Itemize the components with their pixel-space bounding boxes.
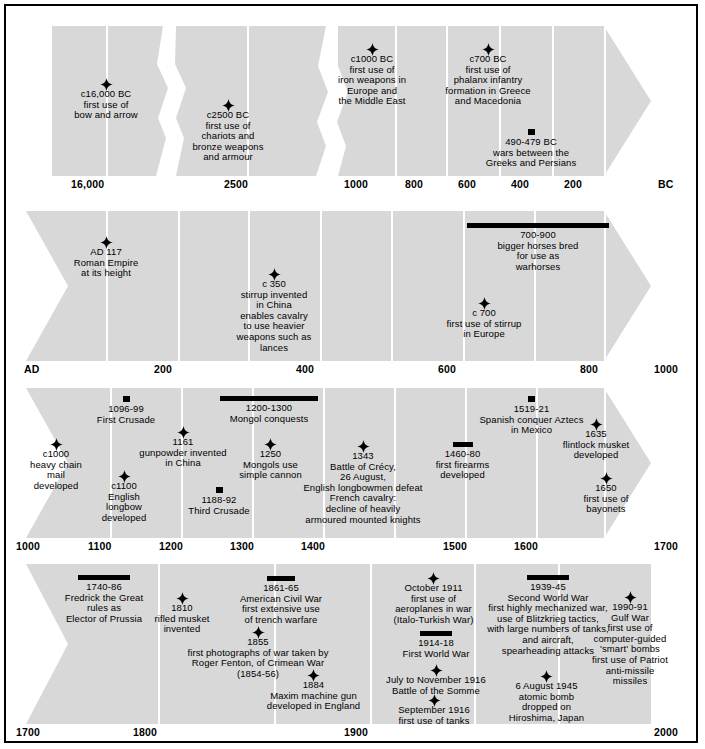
axis-tick: 2500: [224, 178, 248, 190]
event-text: 1914-18First World War: [403, 637, 470, 659]
timeline-event: c 700first use of stirrupin Europe: [404, 297, 564, 340]
timeline-event: September 1916first use of tanks: [364, 694, 504, 726]
axis-tick: 1600: [514, 540, 538, 552]
event-text: 1460-80first firearmsdeveloped: [436, 448, 490, 480]
event-text: 490-479 BCwars between theGreeks and Per…: [486, 136, 577, 168]
event-text: c 700first use of stirrupin Europe: [447, 307, 522, 339]
timeline-event: c1100Englishlongbowdeveloped: [79, 470, 169, 523]
axis-tick: 1100: [88, 540, 112, 552]
event-text: 1343Battle of Crécy,26 August,English lo…: [303, 450, 422, 525]
event-text: 1096-99First Crusade: [97, 403, 155, 425]
axis-tick: 1800: [133, 726, 157, 738]
event-text: October 1911first use ofaeroplanes in wa…: [394, 582, 474, 625]
event-text: 700-900bigger horses bredfor use aswarho…: [497, 229, 578, 272]
timeline-event: 1650first use ofbayonets: [551, 472, 661, 515]
axis-tick: 1400: [301, 540, 325, 552]
axis-tick: 1900: [344, 726, 368, 738]
axis-tick: 1000: [654, 363, 678, 375]
timeline-event: c 350stirrup inventedin Chinaenables cav…: [194, 268, 354, 353]
timeline-row-bc: c16,000 BCfirst use ofbow and arrow c250…: [6, 26, 696, 196]
timeline-event: AD 117Roman Empireat its height: [36, 236, 176, 279]
event-text: c2500 BCfirst use ofchariots andbronze w…: [192, 109, 263, 162]
axis-tick: 1500: [443, 540, 467, 552]
timeline-event: c2500 BCfirst use ofchariots andbronze w…: [158, 99, 298, 163]
axis-tick: 1200: [159, 540, 183, 552]
timeline-event: 1200-1300Mongol conquests: [219, 392, 319, 424]
axis-tick: 600: [438, 363, 456, 375]
event-text: c1100Englishlongbowdeveloped: [102, 480, 147, 523]
timeline-event: 1460-80first firearmsdeveloped: [415, 438, 510, 481]
axis-tick: 400: [511, 178, 529, 190]
axis-tick: 2000: [654, 726, 678, 738]
timeline-event: 490-479 BCwars between theGreeks and Per…: [446, 126, 616, 169]
event-text: 1884Maxim machine gundeveloped in Englan…: [267, 679, 360, 711]
event-text: c16,000 BCfirst use ofbow and arrow: [74, 88, 138, 120]
event-text: 1650first use ofbayonets: [583, 482, 628, 514]
era-label-ad: AD: [24, 363, 40, 375]
event-text: 1740-86Fredrick the Greatrules asElector…: [65, 581, 143, 624]
event-text: September 1916first use of tanks: [398, 704, 470, 726]
axis-tick: 16,000: [71, 178, 104, 190]
event-text: 1635flintlock musketdeveloped: [563, 428, 630, 460]
event-text: 1861-65American Civil Warfirst extensive…: [240, 582, 322, 625]
timeline-event: 1096-99First Crusade: [71, 393, 181, 425]
event-text: AD 117Roman Empireat its height: [74, 246, 139, 278]
event-text: 1188-92Third Crusade: [188, 494, 250, 516]
axis-tick: 1000: [344, 178, 368, 190]
axis-tick: 400: [296, 363, 314, 375]
timeline-event: 1635flintlock musketdeveloped: [536, 418, 656, 461]
timeline-event: c700 BCfirst use ofphalanx infantryforma…: [398, 43, 578, 107]
event-text: c 350stirrup inventedin Chinaenables cav…: [237, 278, 312, 353]
timeline-event: 1188-92Third Crusade: [164, 484, 274, 516]
axis-tick: 200: [564, 178, 582, 190]
timeline-row-medieval: c1000heavy chainmaildeveloped 1096-99Fir…: [6, 388, 696, 558]
axis-tick: 800: [580, 363, 598, 375]
axis-tick: 1300: [230, 540, 254, 552]
axis-tick: 800: [405, 178, 423, 190]
timeline-event: 700-900bigger horses bredfor use aswarho…: [458, 219, 618, 272]
event-text: July to November 1916Battle of the Somme: [386, 674, 486, 696]
timeline-event: 1990-91Gulf Warfirst use ofcomputer-guid…: [568, 591, 692, 687]
event-text: c1000heavy chainmaildeveloped: [30, 448, 82, 491]
event-text: c700 BCfirst use ofphalanx infantryforma…: [445, 53, 530, 106]
timeline-row-ad: AD 117Roman Empireat its height c 350sti…: [6, 211, 696, 381]
timeline-event: c16,000 BCfirst use ofbow and arrow: [36, 78, 176, 121]
axis-tick: 1000: [16, 540, 40, 552]
timeline-row-modern: 1740-86Fredrick the Greatrules asElector…: [6, 564, 696, 744]
timeline-frame: c16,000 BCfirst use ofbow and arrow c250…: [4, 4, 698, 743]
era-label-bc: BC: [658, 178, 674, 190]
event-text: 1200-1300Mongol conquests: [230, 402, 309, 424]
event-text: 1161gunpowder inventedin China: [139, 436, 226, 468]
event-text: c1000 BCfirst use ofiron weapons inEurop…: [338, 53, 406, 106]
event-text: 1990-91Gulf Warfirst use ofcomputer-guid…: [592, 601, 668, 686]
axis-tick: 1700: [654, 540, 678, 552]
axis-tick: 600: [458, 178, 476, 190]
timeline-event: 1861-65American Civil Warfirst extensive…: [221, 572, 341, 625]
axis-tick: 200: [154, 363, 172, 375]
axis-tick: 1700: [16, 726, 40, 738]
